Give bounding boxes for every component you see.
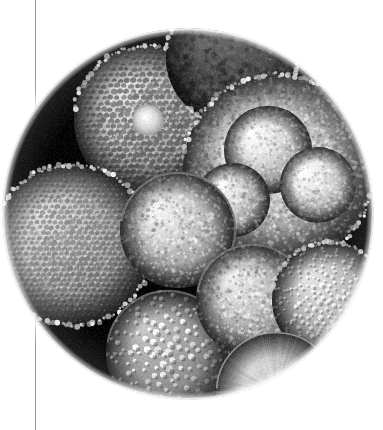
micrograph-image (2, 28, 374, 400)
micrograph-disc (2, 28, 374, 400)
figure-root: Circular grayscale electron micrograph s… (0, 0, 383, 430)
